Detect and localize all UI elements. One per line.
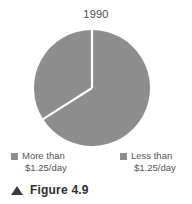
legend-label-more-than: More than $1.25/day [22,150,67,174]
legend-swatch-more-than [11,153,18,160]
legend-label-less-than-line1: Less than [131,150,172,161]
chart-legend: More than $1.25/day Less than $1.25/day [0,150,192,180]
chart-title: 1990 [0,8,192,20]
legend-item-more-than[interactable]: More than $1.25/day [11,150,67,174]
triangle-up-icon [11,186,23,195]
legend-label-less-than-line2: $1.25/day [131,162,176,174]
legend-swatch-less-than [120,153,127,160]
pie-chart [34,30,150,147]
figure-container: 1990 More than $1.25/day Less than $1.25… [0,0,192,204]
legend-item-less-than[interactable]: Less than $1.25/day [120,150,176,174]
legend-label-more-than-line1: More than [22,150,65,161]
figure-caption: Figure 4.9 [11,183,89,197]
legend-label-less-than: Less than $1.25/day [131,150,176,174]
pie-chart-svg [34,30,150,147]
legend-label-more-than-line2: $1.25/day [22,162,67,174]
figure-caption-text: Figure 4.9 [30,183,89,197]
